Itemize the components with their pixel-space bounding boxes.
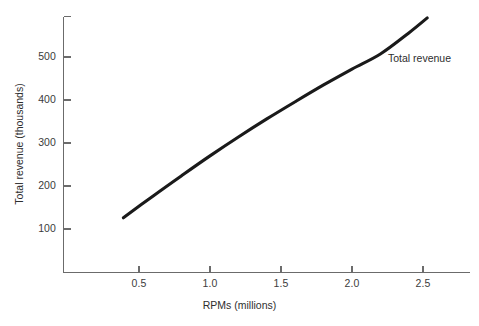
y-tick-marks	[64, 57, 71, 229]
series-annotation-label: Total revenue	[388, 52, 451, 64]
total-revenue-line	[123, 18, 427, 218]
revenue-line-chart: 100200300400500 0.51.01.52.02.5 Total re…	[0, 0, 479, 326]
x-tick-label: 2.5	[403, 277, 443, 289]
x-tick-label: 2.0	[332, 277, 372, 289]
x-tick-marks	[139, 266, 423, 273]
series-group	[123, 18, 427, 218]
x-tick-label: 1.5	[261, 277, 301, 289]
x-tick-label: 0.5	[119, 277, 159, 289]
y-axis-title-container: Total revenue (thousands)	[10, 56, 28, 232]
x-tick-label: 1.0	[190, 277, 230, 289]
x-axis-title: RPMs (millions)	[0, 299, 479, 311]
y-axis-title: Total revenue (thousands)	[13, 83, 25, 204]
